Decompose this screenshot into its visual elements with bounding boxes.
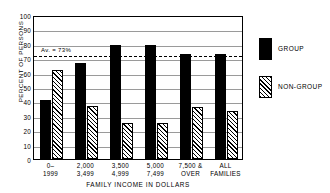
bar-group: [215, 54, 227, 159]
x-tick-label-line2: 4,999: [103, 170, 138, 178]
legend-label: GROUP: [278, 45, 304, 52]
x-tick-label: 5,0007,499: [138, 162, 173, 178]
x-tick-label-line2: OVER: [173, 170, 208, 178]
bar-non-group: [157, 123, 169, 159]
bar-non-group: [87, 106, 99, 159]
y-tick-label: 10: [0, 142, 31, 149]
x-tick-label: 0–1999: [33, 162, 68, 178]
y-tick-label: 50: [0, 85, 31, 92]
legend-swatch-group: [259, 38, 272, 60]
x-tick-label-line1: 2,000: [68, 162, 103, 170]
bar-group: [180, 54, 192, 159]
x-tick-label-line1: ALL: [208, 162, 243, 170]
x-tick-label-line2: 1999: [33, 170, 68, 178]
legend-label: NON-GROUP: [278, 83, 323, 90]
y-tick-label: 40: [0, 99, 31, 106]
legend-swatch-non-group: [259, 76, 272, 98]
y-tick-label: 80: [0, 41, 31, 48]
chart-figure: PERCENT OF PERSONS 100908070605040302010…: [0, 0, 330, 193]
y-tick-label: 20: [0, 128, 31, 135]
bar-group: [145, 45, 157, 159]
y-tick-label: 90: [0, 27, 31, 34]
bar-group: [40, 100, 52, 159]
x-tick-label-line1: 7,500 &: [173, 162, 208, 170]
x-tick-label: 7,500 &OVER: [173, 162, 208, 178]
y-tick-label: 70: [0, 56, 31, 63]
x-tick-label-line2: 7,499: [138, 170, 173, 178]
bar-group: [110, 45, 122, 159]
bar-non-group: [192, 107, 204, 159]
x-axis-title: FAMILY INCOME IN DOLLARS: [33, 181, 243, 188]
bar-group: [75, 63, 87, 159]
x-tick-label-line1: 5,000: [138, 162, 173, 170]
bar-series-layer: [34, 17, 242, 159]
y-tick-label: 100: [0, 13, 31, 20]
y-tick-label: 0: [0, 157, 31, 164]
x-tick-label-line2: FAMILIES: [208, 170, 243, 178]
bar-non-group: [122, 123, 134, 159]
x-tick-label: 3,5004,999: [103, 162, 138, 178]
x-tick-label-line1: 0–: [33, 162, 68, 170]
plot-area: Av. = 73%: [33, 16, 243, 160]
bar-non-group: [227, 111, 239, 159]
x-tick-label: ALLFAMILIES: [208, 162, 243, 178]
y-tick-label: 30: [0, 113, 31, 120]
bar-non-group: [52, 70, 64, 159]
average-line: [34, 56, 242, 57]
average-line-label: Av. = 73%: [40, 47, 72, 53]
x-tick-label-line2: 3,499: [68, 170, 103, 178]
y-tick-label: 60: [0, 70, 31, 77]
x-tick-label: 2,0003,499: [68, 162, 103, 178]
x-tick-label-line1: 3,500: [103, 162, 138, 170]
